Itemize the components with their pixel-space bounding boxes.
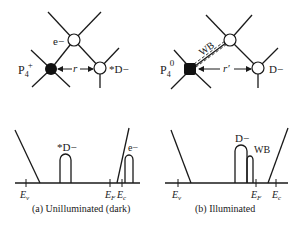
- acceptor-atom-filled-circle: [45, 63, 57, 75]
- distance-label: r: [73, 62, 78, 74]
- donor-state-label: D−: [235, 132, 249, 144]
- donor-state-peak: [235, 145, 247, 183]
- ef-label: EF: [104, 189, 116, 202]
- distance-label: r′: [223, 62, 230, 74]
- ev-label: Ev: [19, 189, 30, 202]
- donor-state-label: *D−: [57, 141, 77, 153]
- conduction-band-edge: [268, 128, 288, 183]
- donor-site-open-circle: [94, 62, 106, 74]
- valence-band-edge: [15, 130, 40, 183]
- ec-label: Ec: [271, 189, 282, 202]
- ef-label: EF: [250, 189, 262, 202]
- panel-a-lattice: e− P4+ r *D−: [18, 12, 129, 88]
- panel-b-caption: (b) Illuminated: [195, 203, 255, 215]
- diagram-canvas: e− P4+ r *D− WB P40 r′ D−: [0, 0, 304, 228]
- donor-label: D−: [269, 63, 283, 75]
- valence-band-edge: [171, 130, 191, 183]
- donor-site-open-circle: [252, 62, 264, 74]
- electron-state-label: e−: [128, 142, 138, 153]
- donor-label: *D−: [109, 63, 129, 75]
- weak-bond-state-label: WB: [254, 144, 270, 155]
- electron-label: e−: [53, 35, 64, 47]
- panel-b-lattice: WB P40 r′ D−: [160, 15, 283, 89]
- electron-site-open-circle: [68, 34, 80, 46]
- acceptor-label: P4+: [18, 60, 33, 79]
- electron-state-peak: [125, 155, 133, 183]
- panel-b-energy-diagram: Ev EF Ec D− WB (b) Illuminated: [165, 128, 288, 215]
- weak-bond-state-peak: [247, 156, 253, 183]
- acceptor-label: P40: [160, 58, 175, 79]
- ev-label: Ev: [171, 189, 182, 202]
- donor-state-peak: [60, 154, 71, 183]
- silicon-site-open-circle: [224, 34, 236, 46]
- ec-label: Ec: [116, 189, 127, 202]
- panel-a-energy-diagram: Ev EF Ec *D− e− (a) Unilluminated (dark): [15, 128, 140, 215]
- acceptor-atom-filled-square: [184, 63, 196, 75]
- weak-bond-label: WB: [197, 39, 217, 58]
- panel-a-caption: (a) Unilluminated (dark): [32, 203, 130, 215]
